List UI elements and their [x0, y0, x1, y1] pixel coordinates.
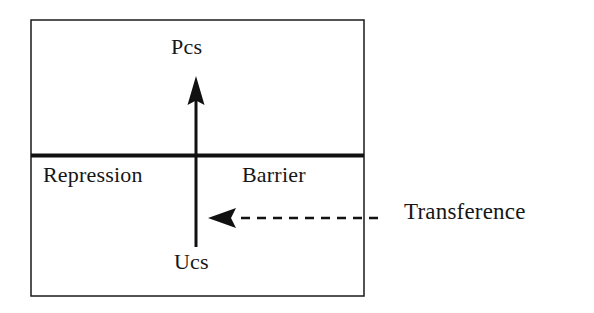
label-repression: Repression: [43, 164, 143, 186]
label-pcs: Pcs: [171, 36, 202, 58]
diagram-canvas: [0, 0, 594, 313]
label-transference: Transference: [404, 200, 526, 223]
label-barrier: Barrier: [242, 164, 306, 186]
label-ucs: Ucs: [174, 251, 209, 273]
transference-arrowhead-icon: [208, 208, 236, 228]
